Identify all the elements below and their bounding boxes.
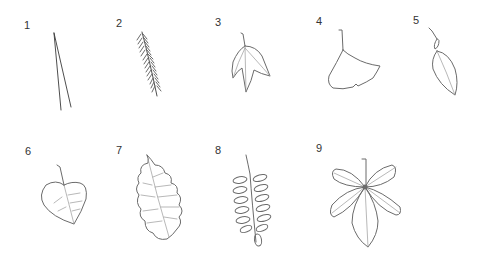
oak-leaf-icon [133, 153, 188, 248]
label-2: 2 [116, 18, 122, 29]
ginkgo-leaf-icon [325, 28, 385, 93]
sweetgum-leaf-icon [228, 30, 278, 95]
hemlock-sprig-icon [135, 28, 170, 103]
pinnate-compound-leaf-icon [228, 152, 276, 252]
label-4: 4 [316, 16, 322, 27]
label-8: 8 [215, 145, 221, 156]
label-6: 6 [25, 146, 31, 157]
heart-shaped-leaf-icon [38, 163, 93, 235]
elliptical-leaf-icon [425, 25, 465, 100]
label-7: 7 [116, 145, 122, 156]
pine-needles-icon [50, 30, 80, 115]
palmate-compound-leaf-icon [322, 155, 407, 255]
label-5: 5 [413, 15, 419, 26]
label-9: 9 [316, 143, 322, 154]
label-1: 1 [24, 20, 30, 31]
label-3: 3 [215, 17, 221, 28]
